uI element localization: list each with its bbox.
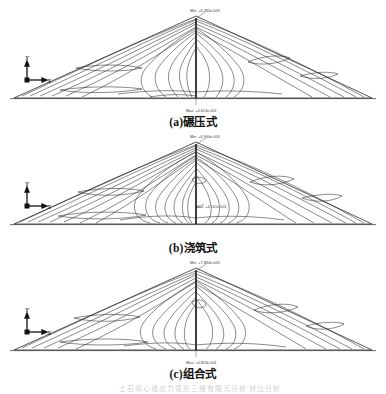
contour-plot-c [0,258,386,358]
min-value-label-b: Min: +6.940e-003 [190,135,220,139]
axis-indicator-a: Y X [22,54,56,88]
axis-label-x-c: X [46,329,52,337]
contour-panel-a: Y X Min: +6.285e-003 Max: +4.613e-001 (a… [0,6,386,132]
figure-page: Y X Min: +6.285e-003 Max: +4.613e-001 (a… [0,0,386,394]
axis-label-y-b: Y [25,180,30,188]
panel-caption-b: (b)浇筑式 [0,239,386,255]
contour-panel-c: Y X Min: +7.884e-003 Max: +4.823e-001 (c… [0,258,386,384]
max-value-label-b: Max: +4.141e-001 [196,205,227,209]
contour-plot-b [0,132,386,232]
axis-label-y-a: Y [25,54,30,62]
axis-indicator-b: Y X [22,180,56,214]
contour-panel-b: Y X Min: +6.940e-003 Max: +4.141e-001 (b… [0,132,386,258]
panel-caption-c: (c)组合式 [0,365,386,381]
contour-plot-a [0,6,386,106]
scan-footer-ghost-text: 土石坝心墙应力变形三维有限元分析 对比分析 [30,383,370,393]
min-value-label-a: Min: +6.285e-003 [190,9,220,13]
axis-label-x-a: X [46,77,52,85]
min-value-label-c: Min: +7.884e-003 [190,261,220,265]
panel-caption-a: (a)碾压式 [0,113,386,129]
axis-indicator-c: Y X [22,306,56,340]
axis-label-y-c: Y [25,306,30,314]
axis-label-x-b: X [46,203,52,211]
